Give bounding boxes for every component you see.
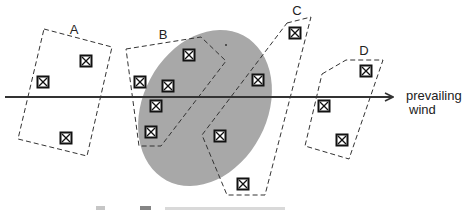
boxed-x-marker-icon [38,77,49,88]
boxed-x-marker-icon [337,135,348,146]
zone-c-label: C [292,3,301,18]
boxed-x-marker-icon [290,28,301,39]
boxed-x-marker-icon [135,77,146,88]
boxed-x-marker-icon [163,81,174,92]
wind-label-line1: prevailing [406,88,462,103]
boxed-x-marker-icon [253,75,264,86]
pollution-plume [112,6,298,209]
zone-d-label: D [359,43,368,58]
zone-a-label: A [70,22,79,37]
boxed-x-marker-icon [184,50,195,61]
zone-b-label: B [159,27,168,42]
boxed-x-marker-icon [151,101,162,112]
boxed-x-marker-icon [238,179,249,190]
boxed-x-marker-icon [81,56,92,67]
boxed-x-marker-icon [146,127,157,138]
wind-plume-diagram: A B C D prevailing wind [0,0,462,210]
boxed-x-marker-icon [61,133,72,144]
plume-dot [225,44,227,46]
caption-cutoff [96,206,285,210]
boxed-x-marker-icon [319,101,330,112]
wind-label-line2: wind [408,102,436,117]
boxed-x-marker-icon [215,131,226,142]
boxed-x-marker-icon [361,66,372,77]
